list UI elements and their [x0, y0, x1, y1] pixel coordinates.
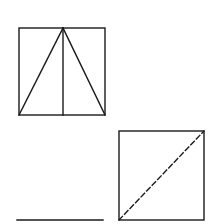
square-with-dashed-diagonal-figure [119, 131, 204, 220]
geometry-diagram [0, 0, 211, 224]
dashed-diagonal-line [119, 131, 204, 220]
triangle-right-side [63, 28, 105, 115]
square-with-triangle-figure [19, 28, 105, 115]
top-square-outline [19, 28, 105, 115]
triangle-left-side [19, 28, 63, 115]
